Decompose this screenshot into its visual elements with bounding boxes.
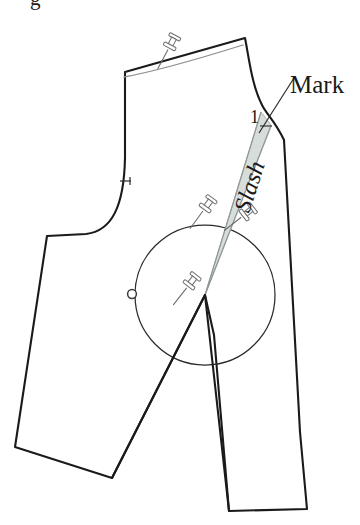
- label-number-one: 1: [250, 107, 259, 127]
- pattern-outline-group: [15, 38, 307, 511]
- pattern-illustration: Mark 1 Slash: [0, 0, 360, 525]
- balance-point-dot-icon: [128, 290, 137, 299]
- label-mark: Mark: [290, 71, 345, 98]
- pattern-piece-outline: [15, 38, 307, 511]
- pattern-diagram-canvas: g: [0, 0, 360, 525]
